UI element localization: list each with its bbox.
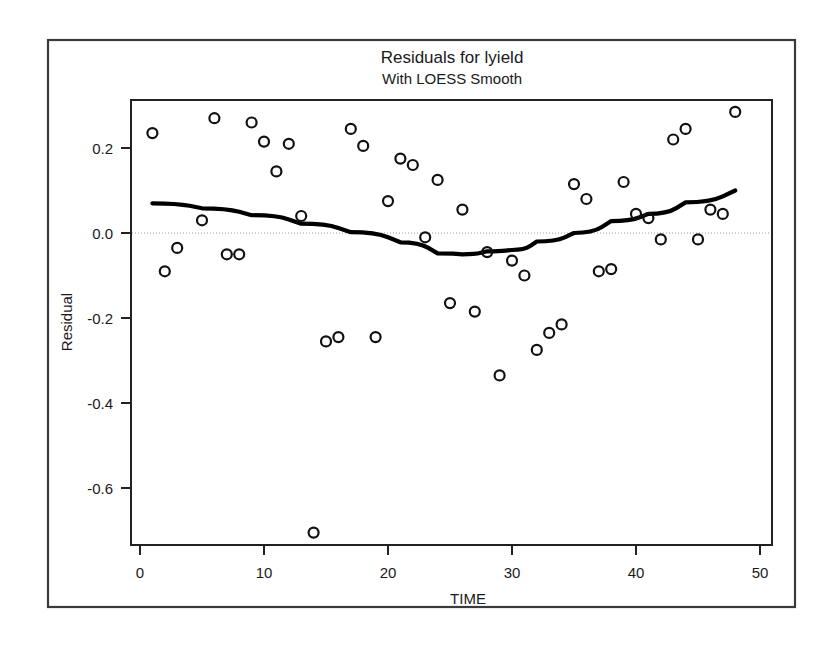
data-point [730, 107, 740, 117]
figure-container: Residuals for lyield With LOESS Smooth 0… [0, 0, 836, 646]
y-tick-label: 0.0 [92, 225, 113, 242]
y-tick-label: 0.2 [92, 140, 113, 157]
data-point [606, 264, 616, 274]
x-axis-title: TIME [450, 590, 486, 607]
data-point [358, 141, 368, 151]
data-point [594, 266, 604, 276]
x-tick-label: 20 [380, 564, 397, 581]
data-point [519, 271, 529, 281]
data-point [557, 319, 567, 329]
data-point [147, 128, 157, 138]
chart-subtitle: With LOESS Smooth [382, 70, 522, 87]
data-point [383, 196, 393, 206]
data-point [172, 243, 182, 253]
data-point [296, 211, 306, 221]
data-point [408, 160, 418, 170]
data-point [457, 205, 467, 215]
data-point [234, 249, 244, 259]
data-point [581, 194, 591, 204]
data-point [433, 175, 443, 185]
x-tick-label: 40 [628, 564, 645, 581]
data-point [619, 177, 629, 187]
scatter-points [147, 107, 740, 538]
y-axis-title: Residual [58, 293, 75, 351]
data-point [284, 139, 294, 149]
data-point [495, 370, 505, 380]
y-tick-label: -0.2 [87, 310, 113, 327]
data-point [718, 209, 728, 219]
plot-frame [131, 100, 772, 545]
data-point [197, 215, 207, 225]
y-tick-label: -0.4 [87, 395, 113, 412]
data-point [247, 118, 257, 128]
data-point [271, 166, 281, 176]
data-point [309, 528, 319, 538]
chart-title: Residuals for lyield [381, 48, 524, 67]
data-point [395, 154, 405, 164]
data-point [470, 307, 480, 317]
data-point [259, 137, 269, 147]
x-tick-label: 30 [504, 564, 521, 581]
data-point [507, 256, 517, 266]
data-point [209, 113, 219, 123]
data-point [681, 124, 691, 134]
data-point [420, 232, 430, 242]
residual-plot: Residuals for lyield With LOESS Smooth 0… [0, 0, 836, 646]
data-point [693, 234, 703, 244]
data-point [321, 336, 331, 346]
data-point [333, 332, 343, 342]
data-point [160, 266, 170, 276]
data-point [668, 135, 678, 145]
x-tick-label: 0 [136, 564, 144, 581]
x-tick-label: 50 [752, 564, 769, 581]
data-point [445, 298, 455, 308]
data-point [544, 328, 554, 338]
data-point [346, 124, 356, 134]
data-point [569, 179, 579, 189]
data-point [532, 345, 542, 355]
x-axis-ticks [140, 545, 760, 555]
x-tick-label: 10 [256, 564, 273, 581]
data-point [656, 234, 666, 244]
y-tick-label: -0.6 [87, 480, 113, 497]
data-point [371, 332, 381, 342]
data-point [705, 205, 715, 215]
data-point [222, 249, 232, 259]
y-axis-ticks [121, 148, 131, 488]
